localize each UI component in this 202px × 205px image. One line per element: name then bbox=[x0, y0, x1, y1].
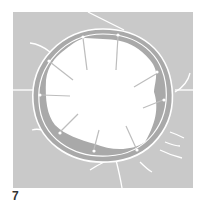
cross-section-diagram bbox=[0, 0, 202, 205]
figure-number: 7 bbox=[12, 189, 19, 203]
